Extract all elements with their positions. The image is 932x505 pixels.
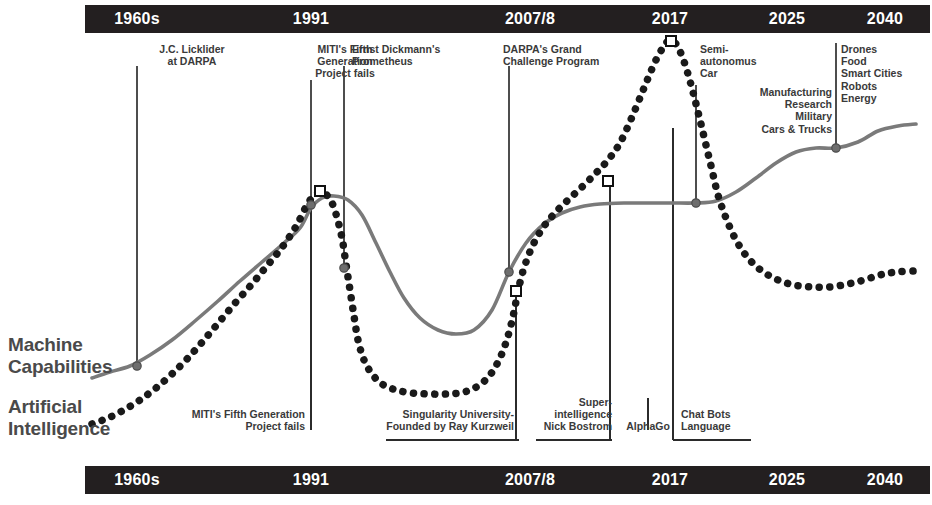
marker-dot-0: [133, 362, 141, 370]
series-label-artificial-intelligence: Artificial Intelligence: [8, 396, 110, 440]
timeline-tick-top-20078: 2007/8: [505, 5, 555, 33]
marker-dot-5: [832, 144, 840, 152]
timeline-bar-top: 1960s19912007/8201720252040: [85, 5, 930, 33]
timeline-tick-bottom-1991: 1991: [293, 466, 329, 494]
annotation-singularity: Singularity University- Founded by Ray K…: [374, 408, 514, 432]
series-path-machine-capabilities: [92, 124, 916, 378]
marker-dot-4: [692, 199, 700, 207]
marker-square-0: [315, 186, 325, 196]
annotation-semi-auto: Semi- autonomus Car: [700, 43, 780, 80]
timeline-tick-top-2017: 2017: [652, 5, 688, 33]
marker-dot-3: [505, 268, 513, 276]
marker-dot-2: [340, 264, 348, 272]
marker-square-2: [603, 176, 613, 186]
timeline-tick-top-2040: 2040: [867, 5, 903, 33]
timeline-tick-bottom-2017: 2017: [652, 466, 688, 494]
timeline-chart-stage: 1960s19912007/8201720252040 1960s1991200…: [0, 0, 932, 505]
annotation-sectors: Manufacturing Research Military Cars & T…: [740, 86, 832, 135]
marker-square-3: [666, 36, 676, 46]
timeline-tick-bottom-2025: 2025: [769, 466, 805, 494]
annotation-darpa-gc: DARPA's Grand Challenge Program: [503, 43, 643, 67]
annotation-prometheus: Ernst Dickmann's Prometheus: [352, 43, 482, 67]
timeline-tick-bottom-1960s: 1960s: [114, 466, 160, 494]
timeline-tick-bottom-20078: 2007/8: [505, 466, 555, 494]
annotation-chatbots: Chat Bots Language: [681, 408, 751, 432]
marker-square-1: [511, 286, 521, 296]
annotation-miti-b: MITI's Fifth Generation Project fails: [172, 408, 305, 432]
timeline-tick-top-1991: 1991: [293, 5, 329, 33]
marker-dot-1: [307, 201, 315, 209]
annotation-superintel: Super- intelligence Nick Bostrom: [540, 396, 612, 433]
annotation-licklider: J.C. Licklider at DARPA: [137, 43, 247, 67]
annotation-alphago: AlphaGo: [620, 420, 676, 432]
timeline-tick-top-1960s: 1960s: [114, 5, 160, 33]
annotation-future-apps: Drones Food Smart Cities Robots Energy: [841, 43, 932, 104]
timeline-bar-bottom: 1960s19912007/8201720252040: [85, 466, 930, 494]
timeline-tick-bottom-2040: 2040: [867, 466, 903, 494]
timeline-tick-top-2025: 2025: [769, 5, 805, 33]
series-label-machine-capabilities: Machine Capabilities: [8, 334, 112, 378]
